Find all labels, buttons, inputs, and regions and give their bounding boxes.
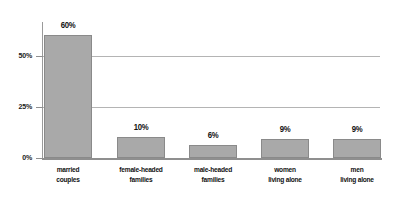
bar-female-headed-families [117,137,165,158]
y-axis-label-50: 50% [6,51,32,60]
y-tick-mark-0 [36,158,43,159]
bar-value-married-couples: 60% [47,20,88,30]
category-label-line-1: married [35,165,102,175]
bar-value-male-headed-families: 6% [192,130,233,140]
bar-value-women-living-alone: 9% [264,124,305,134]
category-label-women-living-alone: women living alone [252,165,319,185]
category-label-line-2: families [180,175,247,185]
y-axis-line [42,22,43,158]
category-label-male-headed-families: male-headed families [180,165,247,185]
category-label-line-2: couples [35,175,102,185]
category-label-line-1: men [324,165,391,175]
bar-value-female-headed-families: 10% [120,122,161,132]
bar-women-living-alone [261,139,309,158]
gridline-25-percent [42,107,380,108]
category-label-female-headed-families: female-headed families [108,165,175,185]
category-label-married-couples: married couples [35,165,102,185]
bar-men-living-alone [333,139,381,158]
bar-chart: 50% 25% 0% 60% married couples 10% femal… [0,0,396,201]
bar-male-headed-families [189,145,237,158]
y-tick-mark-50 [36,56,43,57]
category-label-line-2: living alone [324,175,391,185]
category-label-line-1: female-headed [108,165,175,175]
bar-married-couples [44,35,92,158]
category-label-line-2: families [108,175,175,185]
y-axis-label-25: 25% [6,102,32,111]
category-label-line-1: male-headed [180,165,247,175]
gridline-50-percent [42,56,380,57]
category-label-men-living-alone: men living alone [324,165,391,185]
x-axis-line [42,158,382,160]
category-label-line-1: women [252,165,319,175]
bar-value-men-living-alone: 9% [336,124,377,134]
category-label-line-2: living alone [252,175,319,185]
y-tick-mark-25 [36,107,43,108]
y-axis-label-0: 0% [6,153,32,162]
